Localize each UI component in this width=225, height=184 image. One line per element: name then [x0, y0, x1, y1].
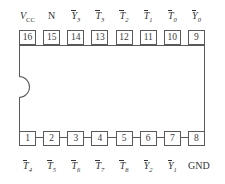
signal-subscript: 2: [125, 16, 128, 23]
signal-subscript: 4: [29, 166, 32, 173]
pin-column: 9: [188, 30, 205, 45]
pin-column: 16: [19, 30, 36, 45]
pin-column: 2: [43, 131, 60, 146]
signal-name: T: [96, 10, 102, 21]
pin-number-box[interactable]: 9: [188, 30, 205, 45]
pin-number-box[interactable]: 4: [91, 131, 108, 146]
pin-column: 7: [164, 131, 181, 146]
signal-subscript: 8: [125, 166, 128, 173]
chip-pinout-diagram: VCCNY3T3T2T1T0Y0 161514131211109 1234567…: [0, 0, 225, 184]
signal-name: Y: [168, 160, 174, 171]
pin-signal-label: T0: [164, 10, 181, 23]
pin-number-box[interactable]: 11: [140, 30, 157, 45]
signal-name: T: [47, 160, 53, 171]
pin-column: 10: [164, 30, 181, 45]
pin-number-box[interactable]: 14: [67, 30, 84, 45]
signal-subscript: 3: [77, 16, 80, 23]
pin-number-box[interactable]: 8: [188, 131, 205, 146]
pin-signal-label: Y3: [67, 10, 84, 23]
pin-column: 4: [91, 131, 108, 146]
pin-number-box[interactable]: 6: [140, 131, 157, 146]
pin-column: 15: [43, 30, 60, 45]
bottom-signal-label-row: T4T5T6T7T8Y2Y1GND: [19, 160, 205, 173]
pin-signal-label: Y2: [140, 160, 157, 173]
pin-signal-label: T5: [43, 160, 60, 173]
top-pin-number-row: 161514131211109: [19, 30, 205, 45]
signal-name: T: [120, 10, 126, 21]
signal-name: T: [71, 160, 77, 171]
pin-column: 8: [188, 131, 205, 146]
signal-subscript: 7: [101, 166, 104, 173]
signal-name: Y: [144, 160, 150, 171]
top-signal-label-row: VCCNY3T3T2T1T0Y0: [19, 10, 205, 23]
pin-signal-label: T2: [116, 10, 133, 23]
signal-subscript: CC: [26, 16, 35, 23]
signal-subscript: 6: [77, 166, 80, 173]
signal-name: T: [120, 160, 126, 171]
bottom-pin-number-row: 12345678: [19, 131, 205, 146]
pin-signal-label: N: [43, 10, 60, 23]
pin-number-box[interactable]: 16: [19, 30, 36, 45]
signal-name: GND: [188, 160, 210, 171]
signal-name: Y: [192, 10, 198, 21]
pin-column: 11: [140, 30, 157, 45]
pin-number-box[interactable]: 1: [19, 131, 36, 146]
signal-name: Y: [71, 10, 77, 21]
pin-signal-label: VCC: [19, 10, 36, 23]
pin-signal-label: Y1: [164, 160, 181, 173]
signal-name: T: [23, 160, 29, 171]
signal-subscript: 1: [149, 16, 152, 23]
signal-subscript: 5: [53, 166, 56, 173]
pin-number-box[interactable]: 10: [164, 30, 181, 45]
pin-signal-label: T7: [91, 160, 108, 173]
pin-signal-label: T1: [140, 10, 157, 23]
pin-column: 3: [67, 131, 84, 146]
pin-number-box[interactable]: 12: [116, 30, 133, 45]
pin-number-box[interactable]: 2: [43, 131, 60, 146]
pin-column: 5: [116, 131, 133, 146]
pin-column: 6: [140, 131, 157, 146]
pin-column: 12: [116, 30, 133, 45]
pin-signal-label: T3: [91, 10, 108, 23]
signal-name: V: [20, 10, 26, 21]
pin-number-box[interactable]: 13: [91, 30, 108, 45]
pin-number-box[interactable]: 3: [67, 131, 84, 146]
signal-subscript: 0: [198, 16, 201, 23]
pin-column: 13: [91, 30, 108, 45]
pin-signal-label: T4: [19, 160, 36, 173]
signal-subscript: 3: [101, 16, 104, 23]
signal-name: T: [144, 10, 150, 21]
signal-name: T: [168, 10, 174, 21]
signal-name: T: [96, 160, 102, 171]
signal-subscript: 2: [149, 166, 152, 173]
pin-signal-label: GND: [188, 160, 205, 173]
pin-signal-label: T6: [67, 160, 84, 173]
pin-number-box[interactable]: 7: [164, 131, 181, 146]
signal-name: N: [48, 10, 55, 21]
pin-column: 14: [67, 30, 84, 45]
pin-number-box[interactable]: 5: [116, 131, 133, 146]
chip-body-outline: [19, 45, 205, 138]
pin-signal-label: T8: [116, 160, 133, 173]
pin-number-box[interactable]: 15: [43, 30, 60, 45]
pin-column: 1: [19, 131, 36, 146]
pin-signal-label: Y0: [188, 10, 205, 23]
